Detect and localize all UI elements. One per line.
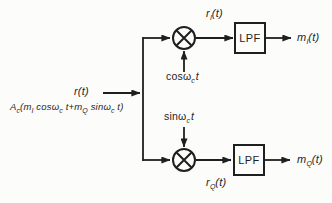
input-formula-label: Ac(mI cosωc t+mQ sinωc t): [10, 102, 124, 115]
top-multiplier-icon: [173, 27, 195, 49]
bottom-output-label: mQ(t): [297, 153, 323, 168]
input-signal-label: r(t): [74, 85, 89, 98]
cos-carrier-label: cosωct: [166, 70, 199, 85]
top-lpf-label: LPF: [235, 23, 265, 53]
bottom-multiplier-icon: [173, 149, 195, 171]
sin-carrier-label: sinωct: [164, 110, 194, 125]
bottom-lpf-label: LPF: [234, 145, 264, 175]
block-diagram: r(t) Ac(mI cosωc t+mQ sinωc t) cosωct rI…: [0, 0, 332, 203]
top-output-label: mI(t): [297, 31, 319, 46]
top-mixer-output-label: rI(t): [206, 7, 223, 22]
bottom-mixer-output-label: rQ(t): [206, 176, 226, 191]
